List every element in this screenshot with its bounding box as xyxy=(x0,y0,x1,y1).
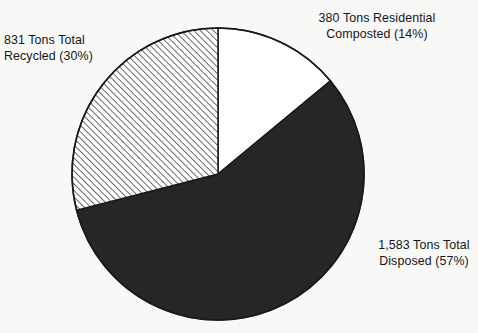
slice-label-disposed-line1: 1,583 Tons Total xyxy=(372,238,476,254)
slice-label-disposed-line2: Disposed (57%) xyxy=(372,254,476,270)
slice-label-composted-line1: 380 Tons Residential xyxy=(296,11,458,27)
slice-label-composted-line2: Composted (14%) xyxy=(296,27,458,43)
slice-label-disposed: 1,583 Tons Total Disposed (57%) xyxy=(372,238,476,269)
slice-label-recycled-line1: 831 Tons Total xyxy=(4,33,93,49)
slice-label-composted: 380 Tons Residential Composted (14%) xyxy=(296,11,458,42)
chart-canvas: 831 Tons Total Recycled (30%) 380 Tons R… xyxy=(0,0,478,333)
slice-label-recycled: 831 Tons Total Recycled (30%) xyxy=(4,33,93,64)
slice-label-recycled-line2: Recycled (30%) xyxy=(4,49,93,65)
